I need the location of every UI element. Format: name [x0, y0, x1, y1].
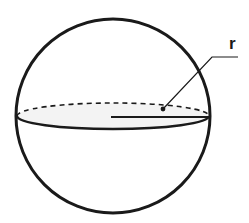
radius-label: r	[229, 34, 236, 53]
label-leader-line	[163, 57, 238, 109]
leader-dot	[161, 107, 166, 112]
sphere-diagram: r	[0, 0, 249, 223]
